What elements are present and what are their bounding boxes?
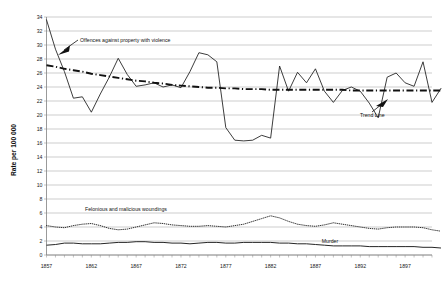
x-tick-label: 1867 bbox=[130, 263, 142, 269]
x-tick-label: 1862 bbox=[86, 263, 98, 269]
y-tick-label: 22 bbox=[37, 98, 43, 104]
y-tick-label: 0 bbox=[40, 252, 43, 258]
x-tick-label: 1892 bbox=[355, 263, 367, 269]
y-tick-label: 20 bbox=[37, 112, 43, 118]
chart-canvas: 0246810121416182022242628303234 18571862… bbox=[0, 0, 444, 287]
x-tick-label: 1877 bbox=[220, 263, 232, 269]
x-tick-label: 1897 bbox=[399, 263, 411, 269]
y-tick-label: 8 bbox=[40, 196, 43, 202]
y-tick-label: 34 bbox=[37, 14, 43, 20]
murder-annotation-group: Murder bbox=[322, 238, 339, 244]
trendline-annotation-label: Trend Line bbox=[360, 112, 385, 118]
woundings-annotation-group: Felonious and malicious woundings bbox=[85, 206, 167, 212]
y-tick-label: 24 bbox=[37, 84, 43, 90]
y-tick-label: 26 bbox=[37, 70, 43, 76]
offences-annotation-label: Offences against property with violence bbox=[80, 37, 171, 43]
murder-annotation-label: Murder bbox=[322, 238, 339, 244]
y-tick-label: 6 bbox=[40, 210, 43, 216]
x-tick-label: 1882 bbox=[265, 263, 277, 269]
y-tick-label: 10 bbox=[37, 182, 43, 188]
y-tick-label: 12 bbox=[37, 168, 43, 174]
y-tick-label: 16 bbox=[37, 140, 43, 146]
y-tick-label: 32 bbox=[37, 28, 43, 34]
x-tick-label: 1872 bbox=[175, 263, 187, 269]
y-tick-label: 28 bbox=[37, 56, 43, 62]
y-tick-label: 30 bbox=[37, 42, 43, 48]
y-tick-label: 18 bbox=[37, 126, 43, 132]
crime-rate-line-chart: 0246810121416182022242628303234 18571862… bbox=[0, 0, 444, 287]
chart-background bbox=[0, 0, 444, 287]
y-tick-label: 2 bbox=[40, 238, 43, 244]
woundings-annotation-label: Felonious and malicious woundings bbox=[85, 206, 167, 212]
x-axis-tick-labels: 185718621867187218771882188718921897 bbox=[41, 263, 411, 269]
y-tick-label: 14 bbox=[37, 154, 43, 160]
y-tick-label: 4 bbox=[40, 224, 43, 230]
x-tick-label: 1857 bbox=[41, 263, 53, 269]
y-axis-title: Rate per 100 000 bbox=[10, 124, 18, 176]
x-tick-label: 1887 bbox=[310, 263, 322, 269]
